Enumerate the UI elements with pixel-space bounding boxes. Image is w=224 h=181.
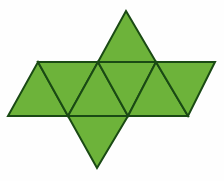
figure-canvas: Net of an octahedron xyxy=(0,0,224,181)
octahedron-net-diagram: Net of an octahedron xyxy=(0,0,224,181)
